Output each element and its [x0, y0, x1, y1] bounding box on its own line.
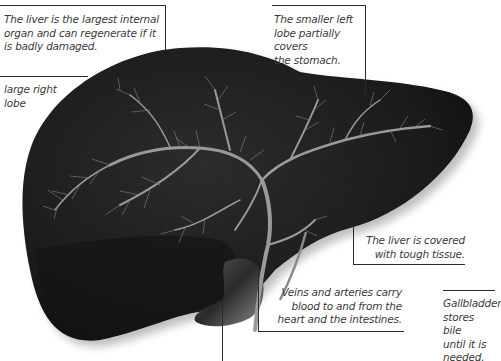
- leader-line-veins-up: [258, 268, 259, 331]
- leader-line-tough-tissue-up: [353, 222, 354, 264]
- leader-line-gallbladder-down: [222, 300, 223, 361]
- leader-line-right-lobe: [0, 76, 88, 77]
- leader-line-gallbladder-top: [443, 290, 495, 291]
- annotation-left-lobe: The smaller left lobe partially covers t…: [274, 13, 374, 67]
- annotation-right-lobe: large right lobe: [4, 83, 84, 110]
- annotation-largest-organ: The liver is the largest internal organ …: [4, 13, 164, 54]
- leader-line-largest-organ-down: [165, 5, 166, 50]
- leader-line-veins-bottom: [258, 331, 404, 332]
- annotation-tough-tissue: The liver is covered with tough tissue.: [355, 234, 465, 261]
- annotation-gallbladder: Gallbladder stores bile until it is need…: [443, 297, 495, 361]
- leader-line-largest-organ-top: [0, 5, 166, 6]
- annotation-veins-arteries: Veins and arteries carry blood to and fr…: [268, 286, 402, 327]
- leader-line-tough-tissue-bottom: [353, 264, 465, 265]
- leader-line-left-lobe-top: [272, 5, 365, 6]
